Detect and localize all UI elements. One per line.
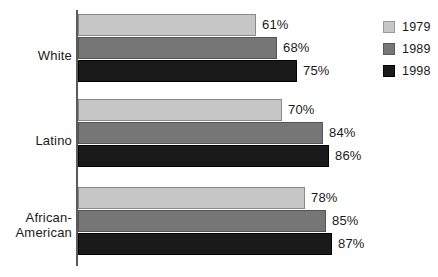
bar-chart: White Latino African- American 61% 68% 7…	[0, 0, 438, 277]
bar-latino-1989	[78, 122, 323, 144]
bar-white-1998	[78, 60, 297, 82]
category-label-latino: Latino	[0, 133, 72, 148]
legend-swatch-icon	[383, 43, 395, 55]
category-label-line: White	[0, 48, 72, 63]
bar-african-american-1979	[78, 187, 305, 209]
bar-white-1979	[78, 14, 256, 36]
bar-value-african-american-1979: 78%	[311, 187, 338, 209]
bar-value-african-american-1998: 87%	[338, 233, 365, 255]
bar-latino-1979	[78, 99, 282, 121]
category-label-white: White	[0, 48, 72, 63]
bar-value-latino-1979: 70%	[288, 99, 315, 121]
legend-label: 1998	[402, 64, 431, 78]
bar-value-white-1998: 75%	[303, 60, 330, 82]
bar-latino-1998	[78, 145, 329, 167]
bar-value-white-1979: 61%	[262, 14, 289, 36]
bar-value-white-1989: 68%	[283, 37, 310, 59]
bar-value-latino-1989: 84%	[329, 122, 356, 144]
category-label-line: Latino	[0, 133, 72, 148]
legend-label: 1979	[402, 20, 431, 34]
category-label-african-american: African- American	[0, 210, 72, 240]
legend-swatch-icon	[383, 21, 395, 33]
bar-african-american-1998	[78, 233, 332, 255]
bar-white-1989	[78, 37, 277, 59]
legend-label: 1989	[402, 42, 431, 56]
bar-value-african-american-1989: 85%	[332, 210, 359, 232]
legend-swatch-icon	[383, 65, 395, 77]
bar-value-latino-1998: 86%	[335, 145, 362, 167]
category-label-line: African-	[0, 210, 72, 225]
category-axis-labels: White Latino African- American	[0, 0, 72, 277]
plot-area: 61% 68% 75% 70% 84% 86% 78% 85% 87%	[78, 0, 378, 277]
category-label-line: American	[0, 225, 72, 240]
bar-african-american-1989	[78, 210, 326, 232]
